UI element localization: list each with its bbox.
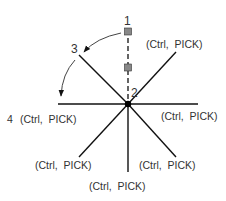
point-label-1: 1 (124, 14, 131, 28)
point-label-4: 4 (7, 113, 13, 125)
pivot-dot-icon (125, 101, 131, 107)
diagonal-lower-left (79, 104, 128, 157)
rotation-diagram: 1 2 3 4 (Ctrl, PICK) (Ctrl, PICK) (Ctrl,… (0, 0, 226, 201)
point-label-2: 2 (131, 86, 138, 100)
pick-label-upper-right: (Ctrl, PICK) (146, 38, 203, 50)
rotation-arc-3-to-4 (61, 60, 75, 96)
diagonal-upper-left (79, 55, 128, 104)
pick-label-right: (Ctrl, PICK) (161, 110, 218, 122)
pick-label-left: (Ctrl, PICK) (20, 113, 77, 125)
pick-label-lower-left: (Ctrl, PICK) (35, 159, 92, 171)
rotation-arc-1-to-3 (84, 33, 121, 52)
square-grip-icon (125, 28, 132, 35)
square-grip-icon (125, 64, 132, 71)
pick-label-lower-right: (Ctrl, PICK) (139, 159, 196, 171)
point-label-3: 3 (71, 42, 78, 56)
pick-label-bottom: (Ctrl, PICK) (89, 180, 146, 192)
